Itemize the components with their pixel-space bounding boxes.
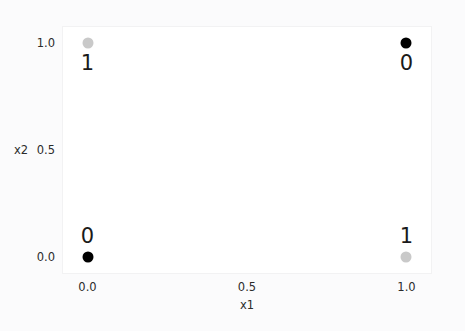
y-tick-label: 0.0 — [37, 250, 55, 264]
data-point-label: 1 — [400, 226, 413, 247]
x-tick-label: 1.0 — [397, 280, 415, 294]
x-tick-label: 0.0 — [78, 280, 96, 294]
data-point — [82, 251, 93, 262]
data-point-label: 1 — [81, 53, 94, 74]
data-point — [82, 38, 93, 49]
x-axis-title: x1 — [240, 298, 254, 312]
x-tick-label: 0.5 — [238, 280, 256, 294]
y-tick-label: 1.0 — [37, 36, 55, 50]
plot-area — [62, 26, 432, 274]
data-point-label: 0 — [81, 226, 94, 247]
y-axis-title: x2 — [14, 143, 28, 157]
data-point — [401, 38, 412, 49]
data-point-label: 0 — [400, 53, 413, 74]
y-tick-label: 0.5 — [37, 143, 55, 157]
scatter-plot-figure: 0110 0.00.51.0 0.00.51.0 x1 x2 — [0, 0, 465, 331]
data-point — [401, 251, 412, 262]
